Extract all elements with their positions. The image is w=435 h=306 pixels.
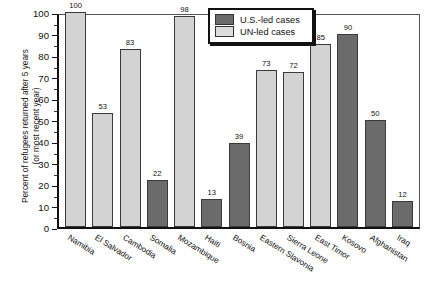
legend: U.S.-led cases UN-led cases xyxy=(208,8,314,44)
bar-cell: 85 xyxy=(307,15,334,227)
bar-value-label: 50 xyxy=(371,109,379,118)
y-axis-tick-label: 70 xyxy=(38,73,49,83)
bar: 22 xyxy=(147,180,168,227)
legend-label-un-led: UN-led cases xyxy=(240,27,295,37)
bar-cell: 90 xyxy=(334,15,361,227)
bar-value-label: 13 xyxy=(208,188,216,197)
bar-cell: 73 xyxy=(253,15,280,227)
x-axis-label-cell: Bosnia xyxy=(225,231,252,306)
x-axis-label-cell: East Timor xyxy=(307,231,334,306)
x-axis-labels: NamibiaEl SalvadorCambodiaSomaliaMozambi… xyxy=(57,231,420,306)
bar: 98 xyxy=(174,16,195,227)
x-axis-label-cell: Kosovo xyxy=(335,231,362,306)
bar-series-container: 100538322981339737285905012 xyxy=(59,15,419,227)
bar: 50 xyxy=(365,120,386,228)
bar-value-label: 72 xyxy=(289,61,297,70)
legend-item-un-led: UN-led cases xyxy=(215,26,307,37)
legend-swatch-us-led-icon xyxy=(215,14,234,25)
bar: 53 xyxy=(92,113,113,227)
bar-value-label: 90 xyxy=(344,23,352,32)
x-axis-label-cell: Cambodia xyxy=(115,231,142,306)
bar-cell: 12 xyxy=(389,15,416,227)
x-axis-label-cell: Haiti xyxy=(197,231,224,306)
bar-cell: 50 xyxy=(362,15,389,227)
y-axis-tick-label: 10 xyxy=(38,202,49,212)
x-axis-label-cell: Iraq xyxy=(390,231,417,306)
bar-cell: 53 xyxy=(89,15,116,227)
x-axis-label-cell: Sierra Leone xyxy=(280,231,307,306)
bar-value-label: 22 xyxy=(153,169,161,178)
bar-value-label: 12 xyxy=(398,190,406,199)
y-axis-tick-label: 80 xyxy=(38,52,49,62)
bar: 39 xyxy=(229,143,250,227)
bar-cell: 83 xyxy=(116,15,143,227)
bar: 73 xyxy=(256,70,277,227)
bar-value-label: 100 xyxy=(69,1,82,10)
x-axis-label-cell: Mozambique xyxy=(170,231,197,306)
y-axis-tick-label: 90 xyxy=(38,30,49,40)
y-axis-tick-label: 50 xyxy=(38,116,49,126)
x-axis-label: Haiti xyxy=(203,233,222,249)
bar-value-label: 98 xyxy=(180,5,188,14)
y-axis-tick-label: 100 xyxy=(33,9,49,19)
bar: 12 xyxy=(392,201,413,227)
y-axis-tick-label: 20 xyxy=(38,181,49,191)
bar: 85 xyxy=(310,44,331,227)
bar-value-label: 53 xyxy=(99,102,107,111)
x-axis-label-cell: Eastern Slavonia xyxy=(252,231,279,306)
bar: 83 xyxy=(120,49,141,227)
bar-cell: 72 xyxy=(280,15,307,227)
bar-cell: 100 xyxy=(62,15,89,227)
legend-label-us-led: U.S.-led cases xyxy=(240,15,300,25)
bar-cell: 13 xyxy=(198,15,225,227)
x-axis-label-cell: Somalia xyxy=(142,231,169,306)
bar-value-label: 39 xyxy=(235,132,243,141)
bar-cell: 22 xyxy=(144,15,171,227)
x-axis-label-cell: El Salvador xyxy=(87,231,114,306)
y-axis: 0102030405060708090100 xyxy=(0,14,57,229)
legend-swatch-un-led-icon xyxy=(215,26,234,37)
bar: 13 xyxy=(201,199,222,227)
bar-value-label: 73 xyxy=(262,59,270,68)
bar: 100 xyxy=(65,12,86,227)
legend-item-us-led: U.S.-led cases xyxy=(215,14,307,25)
bar-cell: 39 xyxy=(225,15,252,227)
y-axis-tick-label: 40 xyxy=(38,138,49,148)
bar: 90 xyxy=(337,34,358,228)
bar-chart: Percent of refugees returned after 5 yea… xyxy=(0,0,435,306)
y-axis-tick-label: 30 xyxy=(38,159,49,169)
x-axis-label-cell: Afghanistan xyxy=(362,231,389,306)
y-axis-tick-label: 0 xyxy=(44,224,49,234)
plot-area: 100538322981339737285905012 xyxy=(57,14,420,229)
bar-value-label: 83 xyxy=(126,38,134,47)
bar-cell: 98 xyxy=(171,15,198,227)
y-axis-tick-label: 60 xyxy=(38,95,49,105)
x-axis-label-cell: Namibia xyxy=(60,231,87,306)
x-axis-label: Iraq xyxy=(396,233,413,248)
bar-value-label: 85 xyxy=(316,33,324,42)
bar: 72 xyxy=(283,72,304,227)
